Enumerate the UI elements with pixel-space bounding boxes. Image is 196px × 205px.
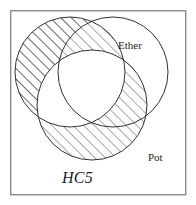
venn-diagram-figure: Ether Pot HC5 [0,0,196,205]
circle-label-pot: Pot [148,152,163,163]
diagram-title-hc5: HC5 [62,170,93,186]
circle-label-ether: Ether [118,40,142,51]
venn-diagram-canvas [0,0,196,205]
